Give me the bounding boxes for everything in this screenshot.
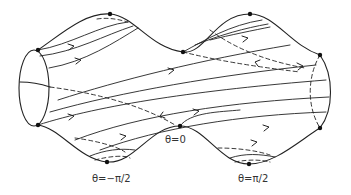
point-marker-theta-half-pi	[247, 162, 251, 166]
hidden-flow-line	[97, 18, 128, 22]
arrow-icon	[263, 125, 269, 131]
flow-line	[38, 80, 326, 125]
arrow-icon	[242, 36, 248, 42]
top-outline	[38, 14, 320, 55]
flow-line	[195, 24, 268, 45]
right-boundary-hidden	[310, 55, 320, 128]
point-marker	[36, 123, 40, 127]
flow-line	[40, 26, 133, 56]
point-marker-theta-zero	[178, 124, 182, 128]
flow-line	[49, 28, 138, 68]
point-marker	[248, 12, 252, 16]
arrow-icon	[120, 134, 126, 140]
surface-diagram: θ=0 θ=−π/2 θ=π/2	[0, 0, 351, 195]
label-theta-zero: θ=0	[165, 134, 186, 145]
flow-line	[50, 65, 316, 112]
hidden-flow-line	[50, 87, 175, 125]
point-marker	[318, 53, 322, 57]
arrow-icon	[255, 60, 260, 66]
point-marker-theta-minus-half-pi	[105, 160, 109, 164]
diagram-canvas	[0, 0, 351, 195]
hidden-flow-line	[210, 30, 305, 68]
flow-line	[38, 22, 128, 50]
point-marker	[108, 12, 112, 16]
point-marker	[318, 126, 322, 130]
flow-line	[180, 110, 240, 126]
flow-line	[90, 149, 135, 156]
label-theta-half-pi: θ=π/2	[238, 173, 268, 184]
point-marker	[36, 48, 40, 52]
left-boundary-ellipse	[19, 50, 49, 126]
point-marker	[181, 50, 185, 54]
flow-line	[230, 155, 275, 159]
hidden-flow-line	[218, 148, 270, 155]
left-ellipse-meridian	[20, 82, 50, 87]
flow-line	[75, 97, 329, 140]
arrow-icon	[251, 140, 257, 146]
right-boundary	[320, 55, 331, 128]
label-theta-minus-half-pi: θ=−π/2	[92, 173, 131, 184]
